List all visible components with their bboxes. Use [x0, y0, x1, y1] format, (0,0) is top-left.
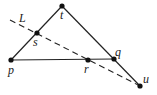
point-p [8, 57, 13, 62]
label-p: p [7, 63, 14, 77]
segment-tu [62, 6, 140, 86]
label-u: u [143, 72, 149, 86]
label-s: s [33, 35, 38, 49]
label-t: t [60, 8, 64, 22]
label-L: L [18, 11, 26, 25]
label-q: q [115, 45, 121, 59]
label-r: r [84, 62, 89, 76]
geometry-diagram: L t s p r q u [0, 0, 157, 95]
point-u [137, 83, 142, 88]
segment-pq [11, 59, 114, 60]
